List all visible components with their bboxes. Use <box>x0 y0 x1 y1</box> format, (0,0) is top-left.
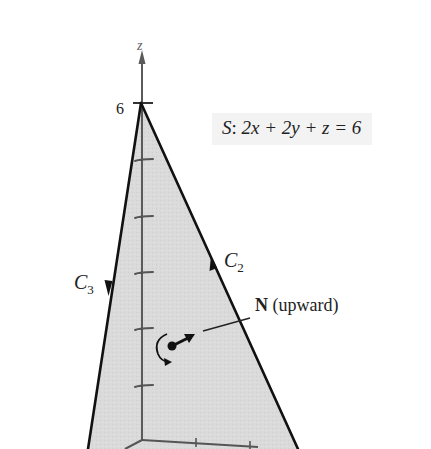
curve-c2-subscript: 2 <box>237 260 244 275</box>
surface-diagram: S: 2x + 2y + z = 6 z 6 C3 C2 N (upward) <box>0 0 431 449</box>
surface-separator: : <box>232 117 237 138</box>
curve-c2-name: C <box>224 249 237 271</box>
surface-equation: S: 2x + 2y + z = 6 <box>222 117 361 139</box>
normal-label: N (upward) <box>255 295 338 316</box>
z-axis-label: z <box>137 38 142 54</box>
curve-c2-label: C2 <box>224 249 244 276</box>
surface-expression: 2x + 2y + z = 6 <box>242 117 362 138</box>
curve-c3-name: C <box>74 271 87 293</box>
normal-note: (upward) <box>273 295 339 315</box>
z-intercept-label: 6 <box>116 100 124 118</box>
normal-symbol: N <box>255 295 268 315</box>
curve-c3-subscript: 3 <box>87 282 94 297</box>
surface-s <box>88 103 298 449</box>
surface-name: S <box>222 117 232 138</box>
curve-c3-label: C3 <box>74 271 94 298</box>
diagram-canvas <box>0 0 431 449</box>
